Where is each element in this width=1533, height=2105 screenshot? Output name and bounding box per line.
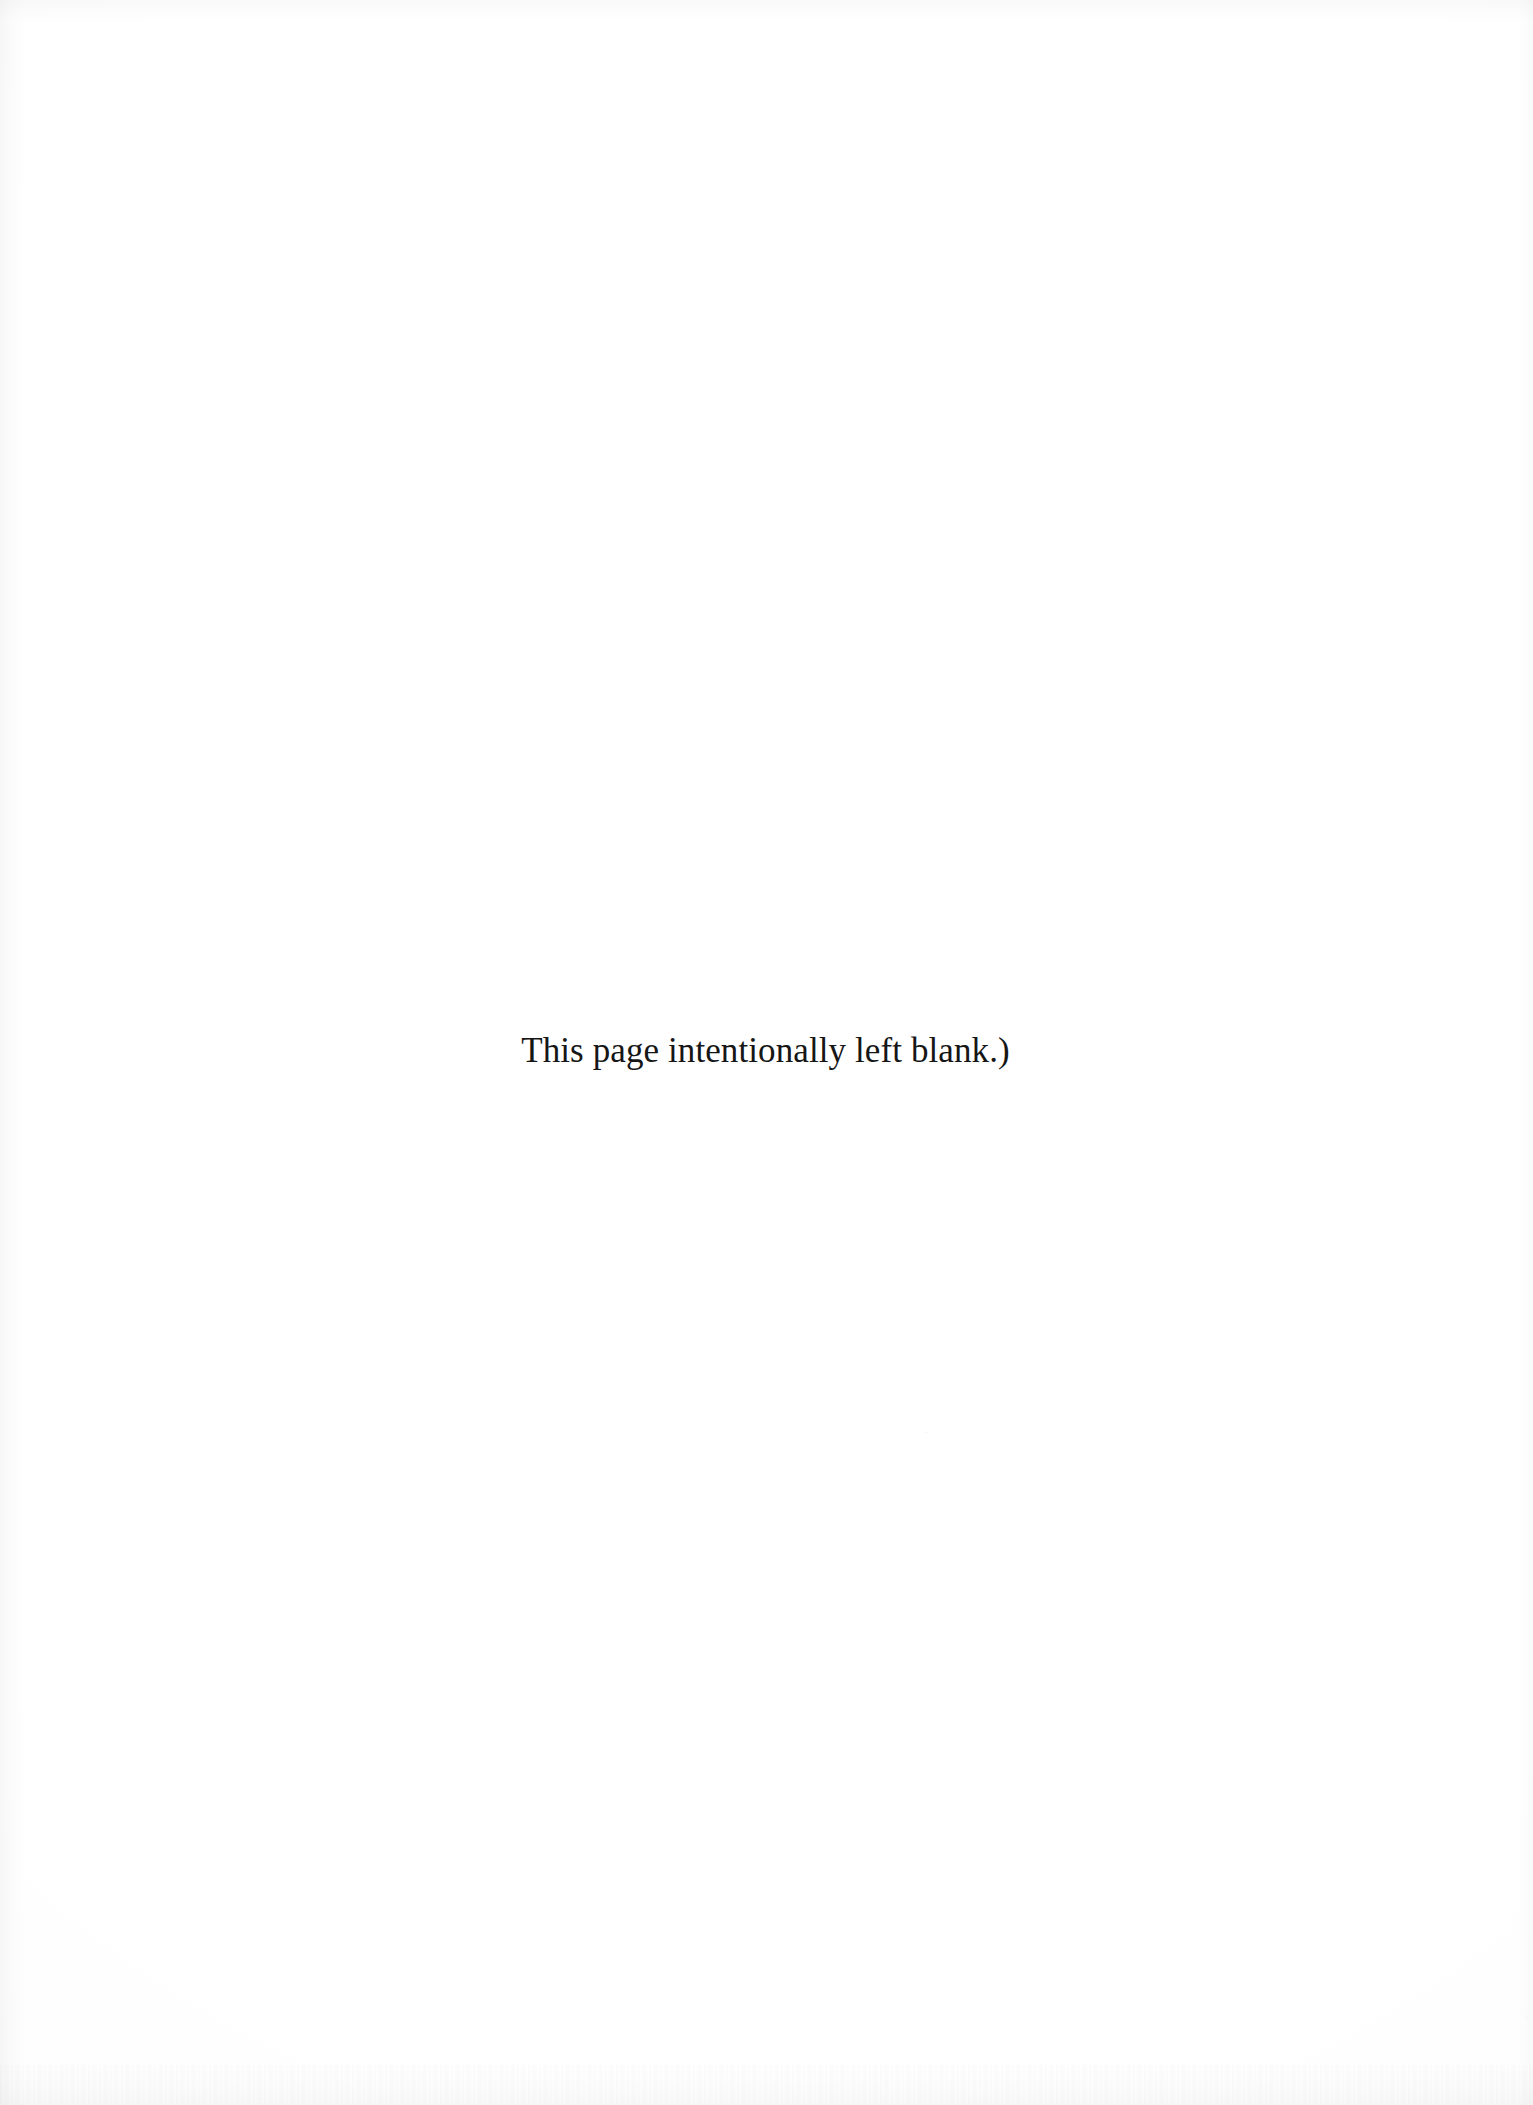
scanned-page: This page intentionally left blank.)	[0, 0, 1533, 2105]
scan-edge-top	[0, 0, 1533, 22]
scan-edge-bottom	[0, 2065, 1533, 2105]
blank-page-notice: This page intentionally left blank.)	[0, 1030, 1533, 1072]
